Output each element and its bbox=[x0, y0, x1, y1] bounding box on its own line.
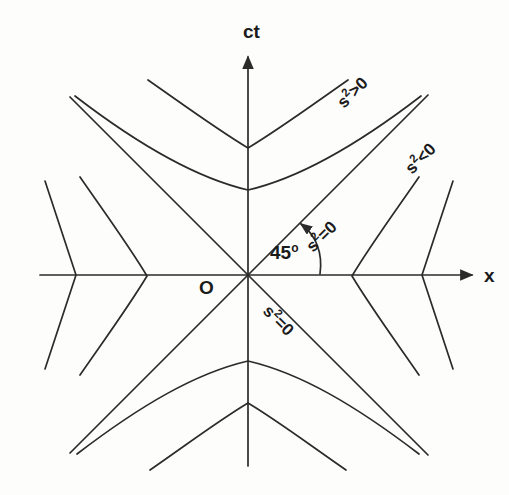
angle-value: 45 bbox=[270, 242, 291, 263]
angle-label: 45o bbox=[270, 243, 298, 262]
hyperbola-spacelike-left-inner bbox=[80, 177, 147, 375]
hyperbola-spacelike-right-inner bbox=[352, 177, 419, 375]
light-cone-line-positive-slope bbox=[70, 95, 428, 453]
diagram-canvas bbox=[0, 0, 509, 495]
light-cone-line-negative-slope bbox=[70, 97, 428, 455]
x-axis-label: x bbox=[484, 266, 495, 285]
degree-symbol: o bbox=[291, 241, 298, 255]
ct-axis-label: ct bbox=[243, 22, 260, 41]
origin-label: O bbox=[199, 278, 214, 297]
minkowski-diagram-figure: ct x O 45o s2>0 s2<0 s2=0 s2=0 bbox=[0, 0, 509, 495]
